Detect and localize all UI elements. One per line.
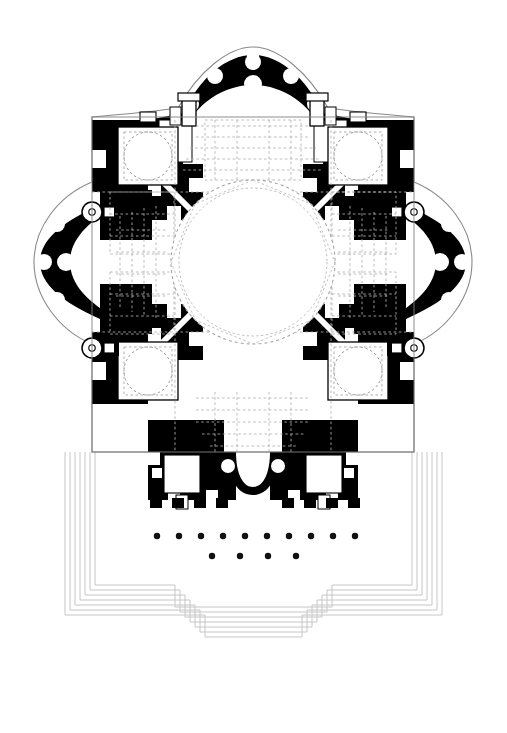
floor-plan-drawing bbox=[0, 0, 507, 733]
legend-block: N 0 20 m 0 60 ft bbox=[0, 645, 507, 715]
floor-plan-figure bbox=[0, 0, 507, 733]
central-dome bbox=[171, 180, 335, 344]
